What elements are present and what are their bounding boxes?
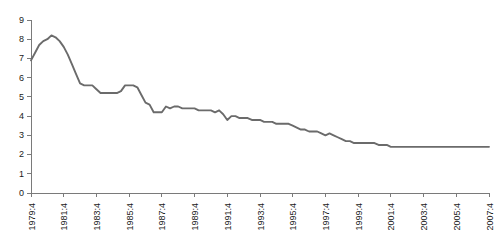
x-tick-label: 1981:4 [59, 203, 69, 231]
x-tick-label: 1993:4 [256, 203, 266, 231]
x-tick-label: 2005:4 [452, 203, 462, 231]
y-tick-label: 5 [19, 92, 24, 102]
y-tick-label: 4 [19, 111, 24, 121]
x-tick-label: 1985:4 [125, 203, 135, 231]
x-axis-ticks: 1979:41981:41983:41985:41987:41989:41991… [27, 193, 495, 231]
x-tick-label: 2003:4 [419, 203, 429, 231]
x-axis: 1979:41981:41983:41985:41987:41989:41991… [27, 193, 495, 231]
y-axis-ticks: 0123456789 [19, 15, 31, 198]
line-chart: 0123456789 1979:41981:41983:41985:41987:… [0, 0, 501, 243]
x-tick-label: 1987:4 [157, 203, 167, 231]
y-tick-label: 9 [19, 15, 24, 25]
x-tick-label: 2007:4 [485, 203, 495, 231]
x-tick-label: 1991:4 [223, 203, 233, 231]
chart-canvas: 0123456789 1979:41981:41983:41985:41987:… [0, 0, 501, 243]
y-tick-label: 6 [19, 73, 24, 83]
x-tick-label: 2001:4 [386, 203, 396, 231]
x-tick-label: 1999:4 [354, 203, 364, 231]
y-tick-label: 7 [19, 53, 24, 63]
data-series-line [31, 35, 489, 146]
x-tick-label: 1989:4 [190, 203, 200, 231]
y-tick-label: 1 [19, 169, 24, 179]
x-tick-label: 1995:4 [288, 203, 298, 231]
x-tick-label: 1979:4 [27, 203, 37, 231]
y-tick-label: 2 [19, 149, 24, 159]
y-tick-label: 8 [19, 34, 24, 44]
x-tick-label: 1997:4 [321, 203, 331, 231]
plot-series [31, 35, 489, 146]
y-axis: 0123456789 [19, 15, 31, 198]
y-tick-label: 0 [19, 188, 24, 198]
y-tick-label: 3 [19, 130, 24, 140]
x-tick-label: 1983:4 [92, 203, 102, 231]
